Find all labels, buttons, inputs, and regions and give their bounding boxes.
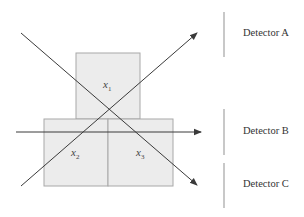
detector-b-label: Detector B <box>243 125 289 136</box>
cell-x2-subscript: 2 <box>76 153 80 161</box>
detector-c-label: Detector C <box>243 178 289 189</box>
detector-a-bar <box>223 12 225 57</box>
detector-c-bar <box>223 163 225 208</box>
cell-x1-label: x1 <box>103 78 111 93</box>
cell-x3-subscript: 3 <box>141 153 145 161</box>
cell-x2-label: x2 <box>71 146 79 161</box>
cell-x1-subscript: 1 <box>108 85 112 93</box>
detector-a-label: Detector A <box>243 27 289 38</box>
detector-b-bar <box>223 109 225 155</box>
cell-x3-label: x3 <box>136 146 144 161</box>
